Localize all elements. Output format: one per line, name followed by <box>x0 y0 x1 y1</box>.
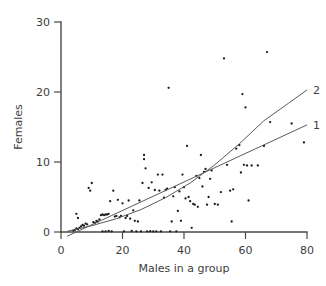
data-point <box>244 106 246 108</box>
x-tick-label-0: 0 <box>58 244 65 257</box>
data-point <box>178 190 180 192</box>
y-axis-ticks <box>54 22 61 232</box>
data-point <box>131 230 133 232</box>
data-point <box>158 190 160 192</box>
scatter-chart: 0 10 20 30 Females 0 20 40 60 80 Males i… <box>0 0 326 286</box>
data-point <box>109 200 111 202</box>
data-point <box>204 168 206 170</box>
data-point <box>88 187 90 189</box>
data-point <box>117 199 119 201</box>
data-point <box>112 190 114 192</box>
data-point <box>269 121 271 123</box>
y-tick-label-20: 20 <box>36 86 50 99</box>
data-point <box>200 154 202 156</box>
data-point <box>186 145 188 147</box>
data-point <box>101 230 103 232</box>
data-point <box>169 230 171 232</box>
y-tick-label-30: 30 <box>36 16 50 29</box>
data-point <box>247 199 249 201</box>
data-point <box>175 230 177 232</box>
data-point <box>246 164 248 166</box>
data-point <box>143 154 145 156</box>
data-point <box>135 230 137 232</box>
x-tick-label-20: 20 <box>116 244 130 257</box>
data-point <box>209 178 211 180</box>
data-point <box>201 185 203 187</box>
data-point <box>108 230 110 232</box>
data-point <box>223 57 225 59</box>
curve-label-1: 1 <box>313 119 320 132</box>
data-point <box>257 164 259 166</box>
data-point <box>154 189 156 191</box>
data-point <box>127 199 129 201</box>
data-point <box>217 204 219 206</box>
data-point <box>124 217 126 219</box>
data-point <box>108 213 110 215</box>
fit-curve-2 <box>67 90 307 231</box>
data-point <box>181 173 183 175</box>
data-point <box>140 230 142 232</box>
data-point <box>177 210 179 212</box>
data-point <box>240 171 242 173</box>
data-point <box>137 220 139 222</box>
x-tick-label-60: 60 <box>239 244 253 257</box>
data-point <box>231 220 233 222</box>
data-point <box>180 220 182 222</box>
data-point <box>149 230 151 232</box>
data-point <box>134 220 136 222</box>
y-axis-title: Females <box>12 104 25 150</box>
y-tick-label-10: 10 <box>36 156 50 169</box>
data-point <box>151 181 153 183</box>
data-point <box>115 215 117 217</box>
data-point <box>147 187 149 189</box>
data-point <box>184 197 186 199</box>
data-point <box>141 182 143 184</box>
data-point <box>243 164 245 166</box>
data-point <box>83 225 85 227</box>
y-axis-group: 0 10 20 30 Females <box>12 16 61 239</box>
data-point <box>172 195 174 197</box>
data-point <box>167 87 169 89</box>
data-point <box>121 202 123 204</box>
data-point <box>214 203 216 205</box>
data-point <box>146 230 148 232</box>
data-point <box>104 230 106 232</box>
data-point <box>171 220 173 222</box>
data-point <box>144 167 146 169</box>
data-point <box>123 230 125 232</box>
data-point <box>75 213 77 215</box>
data-point <box>189 200 191 202</box>
x-tick-label-40: 40 <box>177 244 191 257</box>
data-point <box>98 218 100 220</box>
data-point <box>129 218 131 220</box>
data-point <box>226 164 228 166</box>
x-axis-ticks <box>61 232 307 239</box>
data-point <box>89 190 91 192</box>
data-point <box>206 204 208 206</box>
data-point <box>251 164 253 166</box>
data-point <box>232 188 234 190</box>
fit-curve-1 <box>67 125 307 236</box>
data-point <box>161 173 163 175</box>
data-point <box>187 196 189 198</box>
data-point <box>229 190 231 192</box>
data-point <box>143 158 145 160</box>
data-point <box>91 182 93 184</box>
data-point <box>160 230 162 232</box>
data-point <box>235 148 237 150</box>
x-axis-title: Males in a group <box>139 262 230 275</box>
data-point <box>194 204 196 206</box>
data-point <box>266 51 268 53</box>
data-point <box>191 227 193 229</box>
x-axis-group: 0 20 40 60 80 Males in a group <box>58 232 315 275</box>
curve-label-2: 2 <box>313 84 320 97</box>
data-point <box>138 199 140 201</box>
data-point <box>207 196 209 198</box>
y-tick-label-0: 0 <box>43 226 50 239</box>
data-point <box>303 141 305 143</box>
data-point <box>220 191 222 193</box>
data-point <box>111 230 113 232</box>
data-point <box>157 173 159 175</box>
x-tick-label-80: 80 <box>300 244 314 257</box>
data-point <box>86 223 88 225</box>
